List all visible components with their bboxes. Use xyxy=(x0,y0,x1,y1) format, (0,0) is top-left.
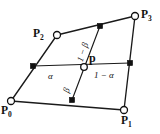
vertex-label-p2-name: P xyxy=(33,27,40,39)
vertex-label-p3: P3 xyxy=(141,9,152,23)
vertex-label-p0: P0 xyxy=(1,105,12,119)
edge-p2-p3 xyxy=(57,16,135,35)
vertex-label-p0-name: P xyxy=(1,104,8,116)
vertex-marker-p1 xyxy=(121,107,128,114)
edge-p1-p0 xyxy=(11,101,124,110)
vertex-label-p0-subscript: 0 xyxy=(8,110,12,119)
param-label-alpha: α xyxy=(48,72,53,81)
vertex-marker-p3 xyxy=(132,13,139,20)
vertex-label-p1: P1 xyxy=(121,115,132,129)
vertex-label-p2-subscript: 2 xyxy=(40,33,44,42)
vertex-marker-p0 xyxy=(8,98,15,105)
param-label-one-minus-alpha: 1 − α xyxy=(94,71,114,80)
interior-point-label: p xyxy=(89,52,96,64)
vertex-marker-p2 xyxy=(54,32,61,39)
edge-midpoint-bottom xyxy=(69,97,74,102)
edge-midpoint-left xyxy=(30,63,35,68)
figure-canvas xyxy=(0,0,160,134)
edge-midpoint-right xyxy=(127,60,132,65)
vertex-label-p2: P2 xyxy=(33,28,44,42)
edge-midpoint-top xyxy=(97,23,102,28)
interior-point-marker xyxy=(81,64,88,71)
vertex-label-p3-name: P xyxy=(141,8,148,20)
vertex-label-p3-subscript: 3 xyxy=(148,14,152,23)
bilinear-interpolation-figure: P0 P1 P2 P3 p α 1 − α β 1 − β xyxy=(0,0,160,134)
vertex-label-p1-name: P xyxy=(121,114,128,126)
vertex-label-p1-subscript: 1 xyxy=(128,120,132,129)
